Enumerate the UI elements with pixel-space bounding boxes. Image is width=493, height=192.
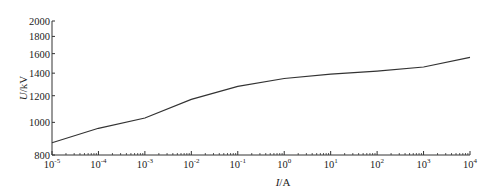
y-tick-label: 1000	[29, 117, 50, 128]
x-tick-label: 10-3	[137, 157, 154, 170]
x-axis-title: I/A	[275, 176, 291, 188]
x-tick-label: 102	[370, 157, 385, 170]
x-axis-title-unit: /A	[279, 176, 290, 188]
chart: 10-510-410-310-210-1100101102103104 8001…	[0, 0, 493, 192]
y-tick-label: 800	[34, 150, 50, 161]
y-tick-label: 1200	[29, 91, 50, 102]
x-tick-label: 104	[463, 157, 478, 170]
x-tick-label: 100	[277, 157, 292, 170]
y-axis: 800100012001400160018002000	[29, 16, 55, 161]
y-tick-label: 1600	[29, 49, 50, 60]
x-axis: 10-510-410-310-210-1100101102103104	[44, 151, 478, 170]
x-tick-label: 103	[417, 157, 432, 170]
y-tick-label: 1800	[29, 31, 50, 42]
data-line	[52, 57, 470, 142]
y-tick-label: 2000	[29, 16, 50, 27]
y-tick-label: 1400	[29, 68, 50, 79]
x-tick-label: 101	[324, 157, 339, 170]
y-axis-title-unit: /kV	[17, 76, 29, 93]
x-tick-label: 10-2	[183, 157, 200, 170]
y-axis-title: U/kV	[17, 76, 29, 101]
x-tick-label: 10-1	[230, 157, 247, 170]
x-tick-label: 10-4	[90, 157, 107, 170]
